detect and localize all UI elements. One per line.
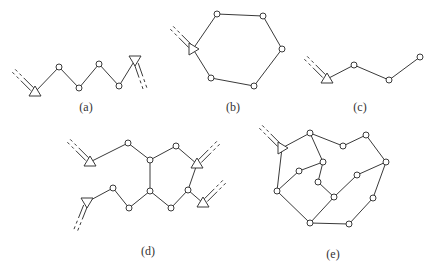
- support-hatch-line: [304, 59, 322, 77]
- member-line: [59, 67, 79, 88]
- diagram-label-d: (d): [141, 244, 155, 259]
- joint-node-icon: [173, 143, 179, 149]
- joint-node-icon: [214, 11, 220, 17]
- support-hatch-line: [307, 56, 325, 74]
- member-line: [119, 60, 135, 86]
- joint-node-icon: [168, 205, 174, 211]
- joint-node-icon: [208, 75, 214, 81]
- member-line: [171, 190, 188, 208]
- support-hatch-line: [70, 139, 88, 157]
- member-line: [35, 67, 59, 92]
- joint-node-icon: [315, 179, 321, 185]
- member-line: [263, 16, 282, 49]
- support-hatch-line: [173, 26, 191, 44]
- support-hatch-line: [262, 125, 280, 143]
- support-hatch-line: [67, 142, 85, 160]
- joint-node-icon: [185, 187, 191, 193]
- member-line: [217, 14, 263, 16]
- member-line: [366, 135, 386, 162]
- joint-node-icon: [279, 46, 285, 52]
- support-hatch-line: [259, 128, 277, 146]
- support-hatch-line: [201, 144, 219, 162]
- member-line: [99, 64, 119, 86]
- joint-node-icon: [354, 172, 360, 178]
- diagram-a: [12, 56, 146, 96]
- member-line: [310, 197, 334, 223]
- member-line: [129, 191, 150, 208]
- diagram-c: [304, 54, 423, 83]
- member-line: [150, 146, 176, 160]
- support-hatch-line: [15, 69, 33, 87]
- member-line: [349, 198, 373, 224]
- diagram-label-c: (c): [353, 100, 366, 115]
- member-line: [90, 143, 128, 162]
- support-hatch-line: [170, 29, 188, 47]
- support-hatch-line: [134, 64, 143, 89]
- joint-node-icon: [126, 205, 132, 211]
- joint-node-icon: [260, 13, 266, 19]
- support-hatch-line: [198, 141, 216, 159]
- support-hatch-line: [12, 72, 30, 90]
- support-triangle-icon: [191, 158, 203, 168]
- member-line: [113, 188, 129, 208]
- support-hatch-line: [204, 180, 222, 198]
- member-line: [211, 78, 254, 86]
- member-line: [277, 191, 310, 223]
- joint-node-icon: [340, 143, 346, 149]
- support-triangle-icon: [321, 73, 333, 83]
- member-line: [389, 57, 420, 80]
- member-line: [334, 175, 357, 197]
- member-line: [193, 49, 211, 78]
- member-line: [176, 146, 197, 164]
- member-line: [150, 191, 171, 208]
- member-line: [299, 162, 323, 171]
- support-hatch-line: [78, 206, 88, 230]
- joint-node-icon: [320, 159, 326, 165]
- joint-node-icon: [296, 168, 302, 174]
- support-triangle-icon: [278, 142, 288, 154]
- support-triangle-icon: [84, 156, 96, 166]
- support-triangle-icon: [189, 43, 199, 55]
- support-triangle-icon: [197, 197, 209, 207]
- support-hatch-line: [74, 205, 84, 229]
- member-line: [193, 14, 217, 49]
- joint-node-icon: [147, 157, 153, 163]
- member-line: [277, 171, 299, 191]
- member-line: [282, 133, 310, 148]
- member-line: [327, 65, 354, 79]
- diagram-b: [170, 11, 285, 89]
- member-line: [354, 65, 389, 80]
- joint-node-icon: [307, 220, 313, 226]
- joint-node-icon: [417, 54, 423, 60]
- support-hatch-line: [138, 63, 147, 88]
- joint-node-icon: [363, 132, 369, 138]
- joint-node-icon: [307, 130, 313, 136]
- joint-node-icon: [96, 61, 102, 67]
- member-line: [310, 223, 349, 224]
- joint-node-icon: [110, 185, 116, 191]
- joint-node-icon: [331, 194, 337, 200]
- joint-node-icon: [346, 221, 352, 227]
- joint-node-icon: [386, 77, 392, 83]
- joint-node-icon: [351, 62, 357, 68]
- joint-node-icon: [383, 159, 389, 165]
- joint-node-icon: [56, 64, 62, 70]
- diagram-label-b: (b): [226, 100, 240, 115]
- support-hatch-line: [207, 183, 225, 201]
- joint-node-icon: [125, 140, 131, 146]
- joint-node-icon: [116, 83, 122, 89]
- member-line: [79, 64, 99, 88]
- joint-node-icon: [370, 195, 376, 201]
- joint-node-icon: [147, 188, 153, 194]
- member-line: [254, 49, 282, 86]
- joint-node-icon: [251, 83, 257, 89]
- member-line: [128, 143, 150, 160]
- member-line: [343, 135, 366, 146]
- diagram-label-a: (a): [79, 100, 92, 115]
- joint-node-icon: [274, 188, 280, 194]
- diagram-d: [67, 139, 225, 230]
- diagram-label-e: (e): [326, 247, 339, 262]
- joint-node-icon: [76, 85, 82, 91]
- diagram-e: [259, 125, 389, 227]
